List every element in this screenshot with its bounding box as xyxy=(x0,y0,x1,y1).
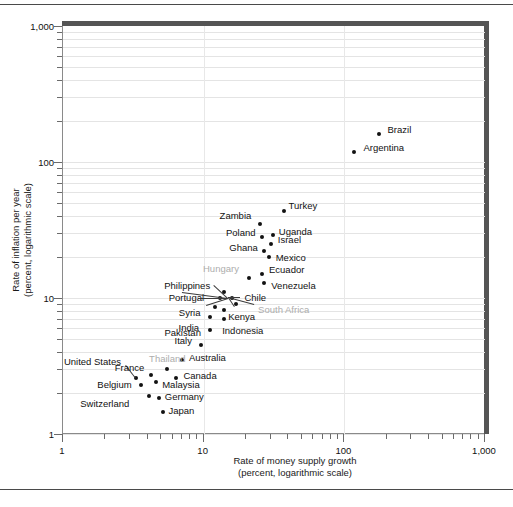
bottom-rule xyxy=(0,489,513,490)
y-axis-tick xyxy=(57,168,62,169)
x-axis-tick xyxy=(484,434,485,442)
y-axis-tick xyxy=(57,32,62,33)
x-axis-title-line1: Rate of money supply growth xyxy=(150,455,440,467)
scatter-plot-area: BrazilArgentinaTurkeyZambiaUgandaPolandI… xyxy=(62,26,484,434)
y-axis-tick xyxy=(57,311,62,312)
y-axis-tick xyxy=(57,319,62,320)
x-axis-tick xyxy=(478,434,479,439)
x-axis-tick xyxy=(462,434,463,439)
y-axis-tick xyxy=(57,203,62,204)
x-axis-tick xyxy=(287,434,288,439)
data-point[interactable] xyxy=(260,235,264,239)
x-axis-tick-label: 100 xyxy=(335,445,351,456)
y-axis-tick xyxy=(57,339,62,340)
x-axis-title: Rate of money supply growth (percent, lo… xyxy=(150,455,440,479)
x-axis-title-line2: (percent, logarithmic scale) xyxy=(150,467,440,479)
gridline-horizontal xyxy=(63,175,485,176)
gridline-horizontal xyxy=(63,203,485,204)
x-axis-tick xyxy=(386,434,387,439)
gridline-horizontal xyxy=(63,47,485,48)
data-point[interactable] xyxy=(222,317,226,321)
data-point[interactable] xyxy=(267,255,271,259)
data-point-label: France xyxy=(115,363,145,373)
data-point[interactable] xyxy=(352,150,356,154)
x-axis-tick xyxy=(160,434,161,439)
data-point-label: Ecuador xyxy=(269,265,304,275)
x-axis-tick xyxy=(453,434,454,439)
data-point-label: Kenya xyxy=(228,312,255,322)
data-point[interactable] xyxy=(377,132,381,136)
gridline-horizontal xyxy=(63,216,485,217)
data-point[interactable] xyxy=(258,222,262,226)
gridline-vertical xyxy=(344,26,345,434)
gridline-horizontal xyxy=(63,298,485,299)
data-point[interactable] xyxy=(222,308,226,312)
y-axis-tick xyxy=(57,80,62,81)
data-point[interactable] xyxy=(208,328,212,332)
y-axis-tick-label: 1,000 xyxy=(14,21,54,32)
gridline-horizontal xyxy=(63,121,485,122)
y-axis-tick xyxy=(57,39,62,40)
data-point-label: Japan xyxy=(169,406,195,416)
y-axis-tick xyxy=(57,67,62,68)
data-point-label: Mexico xyxy=(276,253,306,263)
data-point[interactable] xyxy=(271,233,275,237)
data-point-label: Australia xyxy=(189,353,226,363)
gridline-horizontal xyxy=(63,56,485,57)
x-axis-tick xyxy=(330,434,331,439)
y-axis-tick xyxy=(57,47,62,48)
x-axis-tick xyxy=(172,434,173,439)
x-axis-tick xyxy=(129,434,130,439)
y-axis-tick xyxy=(54,434,62,435)
data-point-label: Indonesia xyxy=(222,326,263,336)
data-point-label: Germany xyxy=(165,392,204,402)
gridline-horizontal xyxy=(63,319,485,320)
data-point[interactable] xyxy=(247,276,251,280)
x-axis-tick xyxy=(322,434,323,439)
x-axis-tick xyxy=(196,434,197,439)
data-point-label: Malaysia xyxy=(162,380,200,390)
data-point[interactable] xyxy=(199,343,203,347)
y-axis-tick xyxy=(57,257,62,258)
y-axis-tick xyxy=(57,233,62,234)
data-point[interactable] xyxy=(260,272,264,276)
data-point[interactable] xyxy=(165,367,169,371)
data-point[interactable] xyxy=(149,373,153,377)
data-point-label: South Africa xyxy=(258,305,309,315)
y-axis-tick xyxy=(57,393,62,394)
x-axis-tick xyxy=(270,434,271,439)
data-point-label: Israel xyxy=(278,235,301,245)
x-axis-tick xyxy=(428,434,429,439)
gridline-horizontal xyxy=(63,183,485,184)
data-point[interactable] xyxy=(139,383,143,387)
data-point-label: Argentina xyxy=(363,143,404,153)
data-point[interactable] xyxy=(282,209,286,213)
data-point[interactable] xyxy=(269,242,273,246)
data-point[interactable] xyxy=(154,380,158,384)
y-axis-tick-label: 100 xyxy=(14,157,54,168)
data-point[interactable] xyxy=(262,281,266,285)
data-point[interactable] xyxy=(157,396,161,400)
data-point[interactable] xyxy=(262,249,266,253)
data-point[interactable] xyxy=(208,315,212,319)
y-axis-tick xyxy=(54,298,62,299)
gridline-horizontal xyxy=(63,192,485,193)
x-axis-tick xyxy=(147,434,148,439)
data-point[interactable] xyxy=(213,305,217,309)
data-point-label: Brazil xyxy=(388,125,412,135)
x-axis-tick xyxy=(410,434,411,439)
x-axis-tick xyxy=(104,434,105,439)
x-axis-tick xyxy=(62,434,63,442)
y-axis-tick xyxy=(57,352,62,353)
y-axis-tick xyxy=(57,328,62,329)
gridline-horizontal xyxy=(63,393,485,394)
data-point[interactable] xyxy=(147,394,151,398)
data-point[interactable] xyxy=(161,410,165,414)
gridline-horizontal xyxy=(63,434,485,435)
data-point-label: Zambia xyxy=(220,211,252,221)
y-axis-tick-label: 1 xyxy=(14,429,54,440)
y-axis-tick xyxy=(57,56,62,57)
y-axis-tick xyxy=(57,97,62,98)
x-axis-tick xyxy=(442,434,443,439)
gridline-horizontal xyxy=(63,339,485,340)
